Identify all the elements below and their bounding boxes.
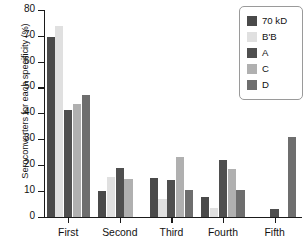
y-axis-tick-label: 70 [24, 29, 35, 40]
bar [158, 199, 166, 217]
legend-item[interactable]: C [247, 61, 297, 77]
y-axis-tick-label: 60 [24, 55, 35, 66]
legend-swatch-icon [247, 48, 257, 58]
bar [228, 169, 236, 216]
bar [185, 190, 193, 217]
legend-item-label: B'B [262, 32, 277, 42]
y-axis-tick: 20 [38, 165, 44, 166]
legend-item-label: A [262, 48, 268, 58]
y-axis-tick-label: 40 [24, 106, 35, 117]
y-axis-tick-label: 50 [24, 80, 35, 91]
y-axis-tick: 70 [38, 36, 44, 37]
legend-item[interactable]: 70 kD [247, 13, 297, 29]
legend-item-label: 70 kD [262, 16, 287, 26]
y-axis-tick: 40 [38, 113, 44, 114]
bar [150, 178, 158, 216]
legend-item-label: C [262, 64, 269, 74]
x-axis-tick [171, 218, 172, 223]
x-axis-tick-label: First [58, 227, 78, 238]
legend-swatch-icon [247, 80, 257, 90]
y-axis-tick: 0 [38, 217, 44, 218]
legend-item[interactable]: D [247, 77, 297, 93]
x-axis-tick-label: Second [102, 227, 137, 238]
x-axis-tick-label: Fourth [208, 227, 238, 238]
y-axis-tick-label: 10 [24, 184, 35, 195]
bar [210, 208, 218, 217]
chart-legend: 70 kDB'BACD [239, 6, 303, 100]
legend-swatch-icon [247, 32, 257, 42]
x-axis-tick-label: Third [160, 227, 184, 238]
y-axis-tick-label: 80 [24, 3, 35, 14]
bar [270, 209, 278, 216]
bar [201, 197, 209, 216]
bar [288, 137, 296, 217]
bar-group [150, 10, 193, 217]
y-axis-tick: 60 [38, 62, 44, 63]
bar [47, 37, 55, 216]
legend-item[interactable]: A [247, 45, 297, 61]
legend-swatch-icon [247, 64, 257, 74]
x-axis-line [44, 217, 302, 218]
x-axis-tick-label: Fifth [264, 227, 284, 238]
bar [167, 180, 175, 216]
bar [55, 26, 63, 217]
y-axis-tick: 80 [38, 10, 44, 11]
bar-chart: Seroconverters for each specificity (%) … [0, 0, 307, 244]
legend-swatch-icon [247, 16, 257, 26]
bar [116, 168, 124, 217]
y-axis-tick-label: 20 [24, 158, 35, 169]
bar [64, 110, 72, 216]
y-axis-line [44, 10, 45, 218]
x-axis-tick [275, 218, 276, 223]
bar [219, 160, 227, 217]
x-axis-tick [68, 218, 69, 223]
bar-group [47, 10, 90, 217]
y-axis-tick: 50 [38, 87, 44, 88]
bar-group [98, 10, 141, 217]
bar [236, 190, 244, 217]
bar [82, 95, 90, 217]
y-axis-tick: 30 [38, 139, 44, 140]
legend-item-label: D [262, 80, 269, 90]
legend-item[interactable]: B'B [247, 29, 297, 45]
bar [176, 157, 184, 216]
y-axis-tick-label: 0 [29, 210, 35, 221]
x-axis-tick [120, 218, 121, 223]
bar [73, 104, 81, 217]
y-axis-tick: 10 [38, 191, 44, 192]
bar [107, 177, 115, 217]
x-axis-tick [223, 218, 224, 223]
bar [124, 179, 132, 217]
bar [98, 191, 106, 217]
y-axis-tick-label: 30 [24, 132, 35, 143]
